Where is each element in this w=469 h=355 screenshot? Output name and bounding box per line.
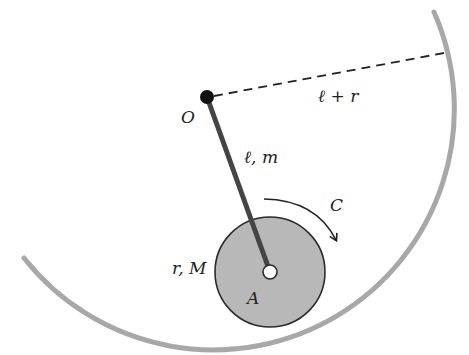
pivot-point-O <box>200 90 214 104</box>
label-A: A <box>245 288 259 308</box>
label-couple-C: C <box>330 195 343 215</box>
label-rod: ℓ, m <box>244 147 278 167</box>
disc-center-point-A <box>263 265 277 279</box>
label-O: O <box>181 107 195 127</box>
label-disc: r, M <box>172 258 207 278</box>
label-track-radius: ℓ + r <box>318 86 359 106</box>
diagram-canvas: O ℓ, m ℓ + r C r, M A <box>0 0 469 355</box>
pendulum-diagram: O ℓ, m ℓ + r C r, M A <box>0 0 469 355</box>
